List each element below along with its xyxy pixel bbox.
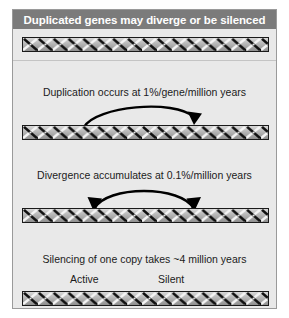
state-labels: Active Silent — [22, 273, 269, 287]
dna-band-duplicated — [22, 125, 269, 140]
dna-helix-icon — [23, 209, 268, 222]
dna-helix-icon — [23, 292, 268, 305]
figure-panel: Duplicated genes may diverge or be silen… — [12, 9, 277, 309]
label-silent: Silent — [158, 273, 184, 285]
page-title: Duplicated genes may diverge or be silen… — [24, 14, 266, 26]
caption-silencing: Silencing of one copy takes ~4 million y… — [13, 253, 276, 265]
label-active: Active — [70, 273, 99, 285]
figure-title-bar: Duplicated genes may diverge or be silen… — [13, 10, 276, 29]
dna-helix-icon — [23, 126, 268, 139]
caption-divergence: Divergence accumulates at 0.1%/million y… — [13, 169, 276, 181]
dna-helix-icon — [23, 38, 268, 51]
dna-band-diverged — [22, 208, 269, 223]
caption-duplication: Duplication occurs at 1%/gene/million ye… — [13, 86, 276, 98]
dna-band-silenced — [22, 291, 269, 306]
section-divider — [13, 60, 276, 61]
dna-band-original — [22, 37, 269, 52]
